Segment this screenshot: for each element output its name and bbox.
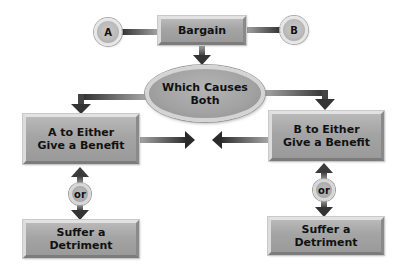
arrow-b-benefit-to-center [212,131,270,149]
a-detriment-label: Suffer a Detriment [26,226,136,252]
or-label-right: or [318,185,330,196]
arrow-a-benefit-to-center [138,131,195,149]
or-node-left: or [69,183,91,205]
b-benefit-box: B to Either Give a Benefit [269,111,384,161]
party-b-node: B [280,16,308,44]
connector-a-bargain [120,29,160,35]
or-node-right: or [313,179,335,201]
bargain-label: Bargain [178,24,226,37]
ellipse-line-2: Both [162,94,248,107]
which-causes-both-ellipse: Which Causes Both [145,65,265,122]
connector-bargain-b [244,27,282,33]
party-b-label: B [290,25,298,36]
ellipse-line-1: Which Causes [162,81,248,94]
bargain-box: Bargain [158,16,246,45]
party-a-node: A [94,18,122,46]
a-benefit-line-2: Give a Benefit [37,139,124,152]
a-benefit-box: A to Either Give a Benefit [23,114,139,164]
a-detriment-box: Suffer a Detriment [23,220,139,258]
arrow-ellipse-to-a-benefit [71,94,148,114]
b-detriment-label: Suffer a Detriment [271,223,381,249]
b-benefit-line-2: Give a Benefit [283,136,370,149]
arrow-bargain-to-ellipse [193,44,211,65]
b-detriment-box: Suffer a Detriment [268,217,384,255]
b-benefit-line-1: B to Either [283,123,370,136]
or-label-left: or [74,189,86,200]
party-a-label: A [104,27,112,38]
a-benefit-line-1: A to Either [37,126,124,139]
arrow-ellipse-to-b-benefit [262,90,335,110]
bargain-diagram: A Bargain B Which Causes Both A to Eithe… [0,0,402,268]
